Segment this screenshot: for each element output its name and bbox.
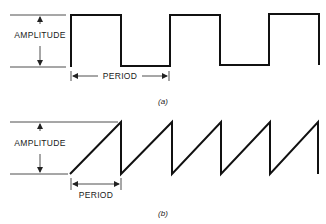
period-label-b: PERIOD: [79, 190, 113, 200]
sawtooth-waveform: [70, 122, 318, 174]
period-label-a: PERIOD: [103, 71, 137, 81]
caption-a: (a): [158, 97, 168, 106]
figure-b-sawtooth-wave: AMPLITUDE PERIOD (b): [10, 122, 318, 218]
figure-a-square-wave: AMPLITUDE PERIOD (a): [10, 14, 319, 106]
caption-b: (b): [158, 209, 168, 218]
amplitude-label-b: AMPLITUDE: [14, 138, 65, 148]
square-waveform: [71, 14, 319, 67]
amplitude-label-a: AMPLITUDE: [14, 30, 65, 40]
waveform-diagram: AMPLITUDE PERIOD (a) AMPLITUDE PERIOD (b…: [0, 0, 326, 224]
